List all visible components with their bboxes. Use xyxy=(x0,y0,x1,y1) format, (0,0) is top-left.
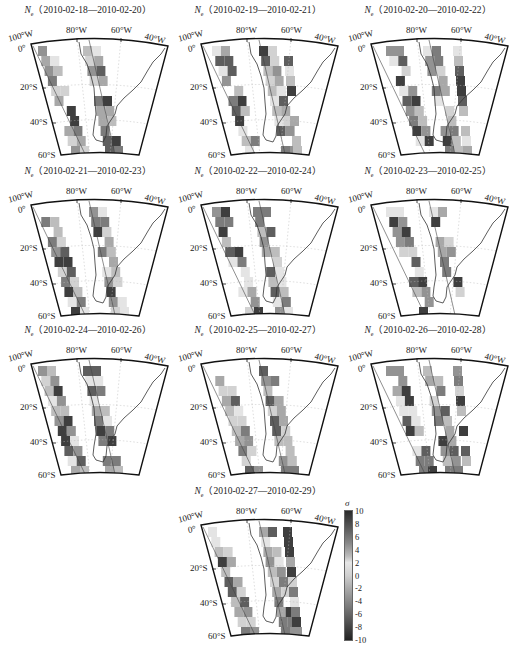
lon-label: 60°W xyxy=(281,25,302,35)
lon-label: 60°W xyxy=(451,186,472,196)
colorbar-tick: -10 xyxy=(355,636,366,644)
lat-label: 60°S xyxy=(378,470,396,480)
lat-label: 20°S xyxy=(190,563,208,573)
lon-label: 80°W xyxy=(66,345,87,355)
lat-label: 0° xyxy=(187,363,197,374)
colorbar-tick: 10 xyxy=(355,507,364,515)
colorbar-tick: -8 xyxy=(355,623,362,631)
lat-label: 20°S xyxy=(190,243,208,253)
map-panel: Ne（2010-02-19—2010-02-21） xyxy=(173,2,343,162)
lon-label: 80°W xyxy=(406,345,427,355)
lat-label: 60°S xyxy=(208,470,226,480)
lat-label: 60°S xyxy=(208,311,226,321)
map-panel: Ne（2010-02-20—2010-02-22） xyxy=(343,2,513,162)
colorbar-tick: -6 xyxy=(355,610,362,618)
map-panel: Ne（2010-02-22—2010-02-24） xyxy=(173,163,343,323)
lat-label: 60°S xyxy=(208,150,226,160)
colorbar-tick: -2 xyxy=(355,584,362,592)
lat-label: 0° xyxy=(357,363,367,374)
map-panel: Ne（2010-02-23—2010-02-25） xyxy=(343,163,513,323)
lon-label: 60°W xyxy=(451,345,472,355)
colorbar-tick: 4 xyxy=(355,546,359,554)
colorbar-tick: 2 xyxy=(355,559,359,567)
lat-label: 0° xyxy=(17,43,27,54)
lat-label: 0° xyxy=(187,204,197,215)
lat-label: 0° xyxy=(17,204,27,215)
colorbar-label: σ xyxy=(345,498,349,508)
colorbar-tick: 0 xyxy=(355,572,359,580)
lat-label: 0° xyxy=(187,524,197,535)
lat-label: 40°S xyxy=(30,278,48,288)
colorbar: σ 1086420-2-4-6-8-10 xyxy=(342,500,382,645)
lat-label: 40°S xyxy=(370,437,388,447)
lat-label: 60°S xyxy=(38,311,56,321)
lat-label: 60°S xyxy=(208,631,226,641)
lon-label: 80°W xyxy=(406,186,427,196)
lat-label: 60°S xyxy=(378,150,396,160)
lon-label: 80°W xyxy=(66,25,87,35)
lon-label: 80°W xyxy=(236,186,257,196)
lon-label: 60°W xyxy=(111,345,132,355)
lon-label: 60°W xyxy=(281,506,302,516)
lat-label: 20°S xyxy=(360,243,378,253)
map-panel: Ne（2010-02-27—2010-02-29） xyxy=(173,483,343,643)
colorbar-tick: 6 xyxy=(355,533,359,541)
lon-label: 80°W xyxy=(236,25,257,35)
lon-label: 80°W xyxy=(406,25,427,35)
lat-label: 20°S xyxy=(190,82,208,92)
lat-label: 40°S xyxy=(200,437,218,447)
lat-label: 0° xyxy=(17,363,27,374)
colorbar-gradient xyxy=(344,510,353,641)
lat-label: 60°S xyxy=(378,311,396,321)
lat-label: 0° xyxy=(357,43,367,54)
lat-label: 20°S xyxy=(190,402,208,412)
lat-label: 20°S xyxy=(360,402,378,412)
map-panel: Ne（2010-02-21—2010-02-23） xyxy=(3,163,173,323)
lat-label: 0° xyxy=(357,204,367,215)
map-panel: Ne（2010-02-25—2010-02-27） xyxy=(173,322,343,482)
map-panel: Ne（2010-02-18—2010-02-20） xyxy=(3,2,173,162)
lon-label: 80°W xyxy=(236,506,257,516)
lat-label: 20°S xyxy=(360,82,378,92)
lat-label: 40°S xyxy=(370,117,388,127)
map-panel: Ne（2010-02-24—2010-02-26） xyxy=(3,322,173,482)
lon-label: 80°W xyxy=(236,345,257,355)
lat-label: 20°S xyxy=(20,82,38,92)
lon-label: 60°W xyxy=(111,186,132,196)
map-panel: Ne（2010-02-26—2010-02-28） xyxy=(343,322,513,482)
lon-label: 60°W xyxy=(111,25,132,35)
lon-label: 60°W xyxy=(451,25,472,35)
lat-label: 60°S xyxy=(38,470,56,480)
lat-label: 0° xyxy=(187,43,197,54)
lat-label: 40°S xyxy=(200,598,218,608)
lon-label: 60°W xyxy=(281,186,302,196)
lon-label: 80°W xyxy=(66,186,87,196)
colorbar-tick: 8 xyxy=(355,520,359,528)
lat-label: 40°S xyxy=(200,117,218,127)
lat-label: 40°S xyxy=(370,278,388,288)
lon-label: 60°W xyxy=(281,345,302,355)
lat-label: 20°S xyxy=(20,402,38,412)
lat-label: 20°S xyxy=(20,243,38,253)
colorbar-tick: -4 xyxy=(355,597,362,605)
lat-label: 40°S xyxy=(30,437,48,447)
lat-label: 40°S xyxy=(200,278,218,288)
lat-label: 40°S xyxy=(30,117,48,127)
lat-label: 60°S xyxy=(38,150,56,160)
